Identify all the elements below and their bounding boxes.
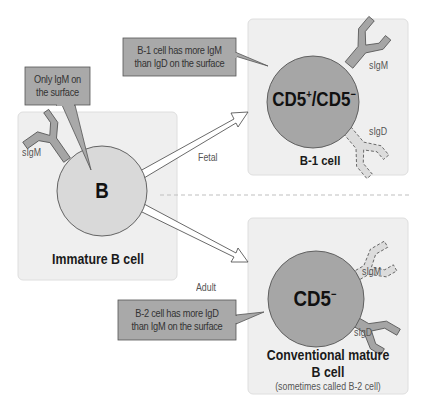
callout-line: B-2 cell has more IgD [125,307,229,320]
immature-callout-text: Only IgM on the surface [29,73,86,99]
b1-callout-text: B-1 cell has more IgM than IgD on the su… [130,44,229,70]
cd5-text: CD5 [272,88,306,110]
b1-cell-name: B-1 cell [285,153,355,168]
b2-callout-text: B-2 cell has more IgD than IgM on the su… [125,307,229,333]
callout-line: than IgD on the surface [130,57,229,70]
b2-sigd-label: sIgD [354,327,372,338]
adult-label: Adult [196,282,216,293]
b2-sigm-label: sIgM [362,266,381,277]
minus-superscript: − [350,88,355,100]
minus-superscript: − [331,288,336,300]
callout-line: than IgM on the surface [125,320,229,333]
fetal-label: Fetal [198,152,218,163]
b2-cell-name-line1: Conventional mature [258,347,399,363]
b2-cell-subtitle: (sometimes called B-2 cell) [258,381,399,392]
callout-line: B-1 cell has more IgM [130,44,229,57]
callout-line: Only IgM on [29,73,86,86]
b1-sigd-label: sIgD [369,126,387,137]
b1-sigm-label: sIgM [369,60,388,71]
cd5-text: /CD5 [312,88,351,110]
immature-cell-name: Immature B cell [28,251,169,267]
immature-cell-label: B [85,178,119,204]
b1-cell-label: CD5+/CD5− [270,88,358,111]
b2-cell-name-line2: B cell [258,364,399,380]
callout-line: the surface [29,86,86,99]
immature-sigm-label: sIgM [22,147,41,158]
b2-cell-label: CD5− [285,286,345,312]
cd5-text: CD5 [294,286,331,311]
